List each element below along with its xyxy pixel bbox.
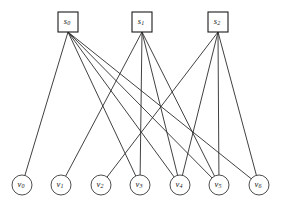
sink-node-v4[interactable]: v4 [170,175,190,195]
source-node-s1[interactable]: s1 [132,12,152,32]
graph-edge [218,32,219,175]
graph-edge [140,32,142,175]
graph-edge [142,32,215,176]
graph-edge [66,32,142,176]
sink-node-v2[interactable]: v2 [91,175,111,195]
graph-edge [218,32,256,175]
sink-node-v1[interactable]: v1 [51,175,71,195]
sink-node-v0[interactable]: v0 [12,175,32,195]
edge-layer [25,32,257,179]
sink-node-layer: v0v1v2v3v4v5v6 [12,175,269,195]
bipartite-graph-diagram: s0s1s2 v0v1v2v3v4v5v6 [0,0,285,206]
sink-node-v3[interactable]: v3 [130,175,150,195]
graph-edge [107,32,218,177]
graph-edge [182,32,218,175]
source-node-s0[interactable]: s0 [58,12,78,32]
source-node-s2[interactable]: s2 [208,12,228,32]
sink-node-v5[interactable]: v5 [209,175,229,195]
graph-edge [25,32,68,175]
graph-edge [142,32,178,175]
source-node-layer: s0s1s2 [58,12,228,32]
graph-canvas: s0s1s2 v0v1v2v3v4v5v6 [0,0,285,206]
graph-edge [68,32,136,176]
sink-node-v6[interactable]: v6 [249,175,269,195]
